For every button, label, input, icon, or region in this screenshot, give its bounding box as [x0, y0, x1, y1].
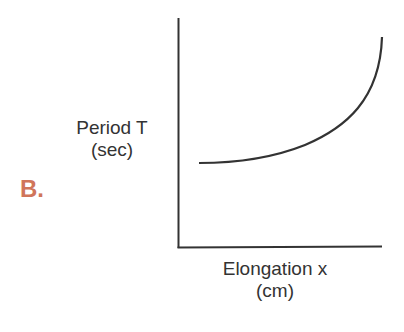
- x-axis-label-line2: (cm): [200, 280, 350, 302]
- y-axis-label: Period T (sec): [62, 117, 162, 161]
- panel-label: B.: [20, 175, 44, 203]
- y-axis-label-line2: (sec): [62, 139, 162, 161]
- x-axis-label-line1: Elongation x: [200, 258, 350, 280]
- y-axis-label-line1: Period T: [62, 117, 162, 139]
- period-curve: [199, 37, 382, 163]
- x-axis: [178, 247, 383, 248]
- x-axis-label: Elongation x (cm): [200, 258, 350, 302]
